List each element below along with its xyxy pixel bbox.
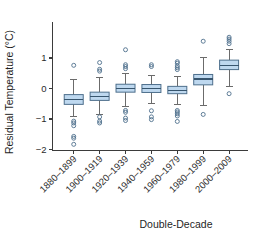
box-plot-group (168, 60, 187, 124)
y-tick-label: −1 (36, 113, 47, 124)
outlier-point (98, 61, 102, 65)
box-plot-group (64, 63, 83, 146)
box-plot-group (90, 61, 109, 125)
y-tick-label: 0 (41, 83, 46, 94)
outlier-point (227, 92, 231, 96)
outlier-point (72, 142, 76, 146)
box-iqr (220, 60, 239, 69)
outlier-point (149, 118, 153, 122)
outlier-point (72, 124, 76, 128)
y-tick-label: −2 (36, 144, 47, 155)
outlier-point (201, 39, 205, 43)
x-axis-title: Double-Decade (140, 218, 213, 230)
outlier-point (201, 112, 205, 116)
y-tick-label: 1 (41, 52, 46, 63)
outlier-point (124, 48, 128, 52)
chart-canvas: 10−1−2 1880–18991900–19191920–19391940–1… (0, 0, 267, 234)
outlier-point (72, 63, 76, 67)
box-plot-group (194, 39, 213, 116)
box-plot-series (64, 35, 238, 146)
box-plot-group (116, 48, 135, 123)
outlier-point (98, 115, 102, 119)
outlier-point (149, 109, 153, 113)
x-axis-ticks: 1880–18991900–19191920–19391940–19591960… (37, 151, 234, 195)
boxplot-figure: 10−1−2 1880–18991900–19191920–19391940–1… (0, 0, 267, 234)
y-axis-ticks: 10−1−2 (36, 52, 53, 154)
y-axis-title: Residual Temperature (°C) (3, 30, 15, 154)
outlier-point (175, 119, 179, 123)
box-plot-group (220, 35, 239, 95)
box-plot-group (142, 63, 161, 122)
box-iqr (194, 74, 213, 84)
